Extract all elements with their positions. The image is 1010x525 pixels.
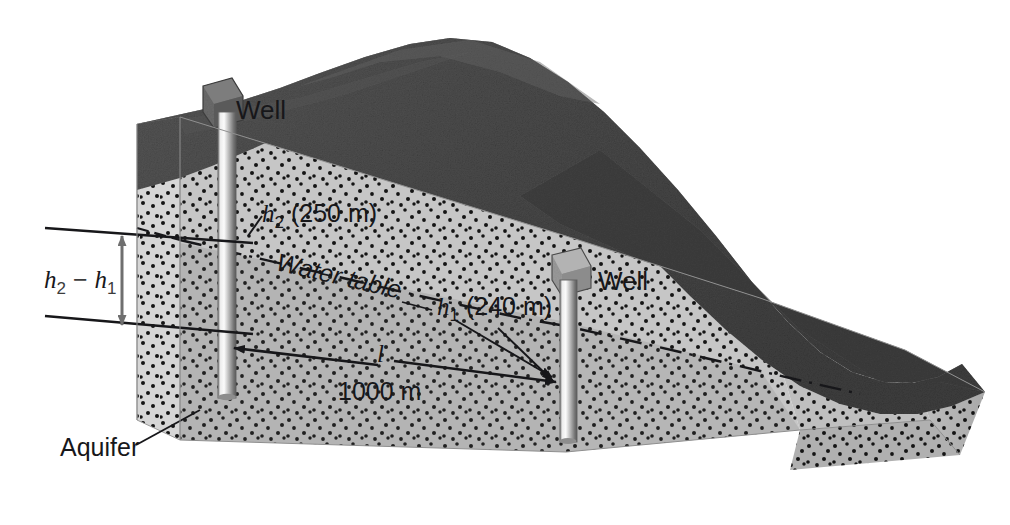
left-well-casing — [218, 112, 236, 398]
separation-symbol: l — [377, 340, 384, 367]
separation-value: 1000 m — [338, 377, 421, 405]
left-well-label: Well — [236, 95, 286, 125]
head-difference-label: h2 − h1 — [44, 265, 116, 298]
diagram-canvas: Water table Well Well h2 (250 m) — [0, 0, 1010, 525]
right-well-label: Well — [598, 266, 648, 296]
right-well-casing — [560, 280, 577, 442]
aquifer-label: Aquifer — [60, 433, 139, 461]
aquifer-diagram: Water table Well Well h2 (250 m) — [0, 0, 1010, 525]
